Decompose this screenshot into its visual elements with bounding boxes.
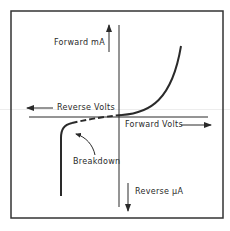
- label-forward-volts: Forward Volts: [125, 120, 183, 129]
- breakdown-curve: [61, 123, 72, 196]
- label-reverse-ua: Reverse μA: [135, 187, 183, 196]
- label-forward-ma: Forward mA: [54, 38, 105, 47]
- label-breakdown: Breakdown: [73, 157, 120, 166]
- breakdown-pointer-arrow-icon: [76, 134, 95, 155]
- diode-iv-diagram: [0, 0, 230, 231]
- label-reverse-volts: Reverse Volts: [57, 103, 115, 112]
- reverse-leakage-dashed-curve: [72, 115, 122, 123]
- forward-conduction-curve: [122, 46, 181, 115]
